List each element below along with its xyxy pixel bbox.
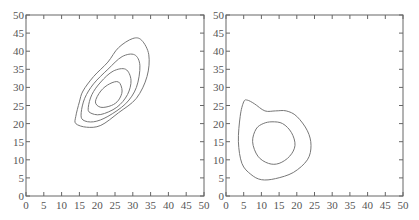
x-tick-label: 15 [74, 199, 86, 211]
y-tick-label: 15 [13, 136, 25, 148]
y-tick-label: 50 [213, 9, 225, 21]
y-tick-label: 5 [219, 172, 225, 184]
y-tick-label: 30 [213, 81, 225, 93]
contour-line-2 [81, 54, 140, 122]
x-tick-label: 15 [274, 199, 286, 211]
x-tick-label: 40 [163, 199, 175, 211]
right-contour-plot: 0510152025303540455005101520253035404550 [213, 9, 409, 211]
x-tick-label: 10 [256, 199, 268, 211]
x-tick-label: 0 [223, 199, 229, 211]
x-tick-label: 20 [92, 199, 104, 211]
x-tick-label: 50 [398, 199, 410, 211]
y-tick-label: 45 [213, 27, 225, 39]
x-tick-label: 40 [362, 199, 374, 211]
x-tick-label: 35 [145, 199, 157, 211]
y-tick-label: 40 [213, 45, 225, 57]
x-tick-label: 20 [291, 199, 303, 211]
y-tick-label: 50 [13, 9, 25, 21]
x-tick-label: 10 [56, 199, 68, 211]
y-tick-label: 15 [213, 136, 225, 148]
x-tick-label: 50 [199, 199, 211, 211]
contour-line-1 [238, 100, 311, 180]
y-tick-label: 25 [213, 100, 225, 112]
y-tick-label: 25 [13, 100, 25, 112]
y-tick-label: 35 [13, 63, 25, 75]
y-tick-label: 30 [13, 81, 25, 93]
y-tick-label: 40 [13, 45, 25, 57]
y-tick-label: 45 [13, 27, 25, 39]
x-tick-label: 45 [181, 199, 193, 211]
contour-line-4 [95, 82, 122, 108]
plot-frame [226, 15, 403, 196]
y-tick-label: 10 [13, 154, 25, 166]
y-tick-label: 20 [13, 118, 25, 130]
x-tick-label: 35 [344, 199, 356, 211]
y-tick-label: 20 [213, 118, 225, 130]
y-tick-label: 35 [213, 63, 225, 75]
plot-frame [26, 15, 204, 196]
left-contour-plot: 0510152025303540455005101520253035404550 [13, 9, 210, 211]
y-tick-label: 10 [213, 154, 225, 166]
y-tick-label: 5 [19, 172, 25, 184]
x-tick-label: 5 [241, 199, 247, 211]
contour-figure: 0510152025303540455005101520253035404550… [0, 0, 419, 220]
x-tick-label: 25 [110, 199, 122, 211]
y-tick-label: 0 [19, 190, 25, 202]
x-tick-label: 30 [127, 199, 139, 211]
x-tick-label: 5 [41, 199, 47, 211]
x-tick-label: 0 [23, 199, 29, 211]
x-tick-label: 25 [309, 199, 321, 211]
x-tick-label: 45 [380, 199, 392, 211]
contour-line-2 [253, 122, 295, 165]
x-tick-label: 30 [327, 199, 339, 211]
y-tick-label: 0 [219, 190, 225, 202]
